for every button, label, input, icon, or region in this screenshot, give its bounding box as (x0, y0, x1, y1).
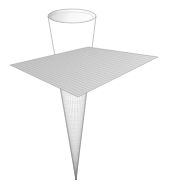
surface-plot-figure (0, 0, 170, 191)
surface-plot-canvas (0, 0, 170, 191)
